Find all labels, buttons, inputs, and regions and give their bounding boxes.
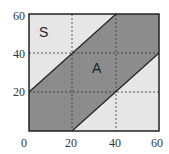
y-tick-40: 40 <box>13 47 25 61</box>
x-tick-40: 40 <box>109 136 121 150</box>
label-s: S <box>39 24 48 40</box>
y-tick-20: 20 <box>13 85 25 99</box>
x-tick-0: 0 <box>21 136 27 150</box>
x-tick-60: 60 <box>151 136 163 150</box>
y-tick-60: 60 <box>13 9 25 23</box>
label-a: A <box>92 60 102 76</box>
x-tick-20: 20 <box>65 136 77 150</box>
probability-diagram: S A 60 40 20 0 20 40 60 <box>0 0 169 154</box>
